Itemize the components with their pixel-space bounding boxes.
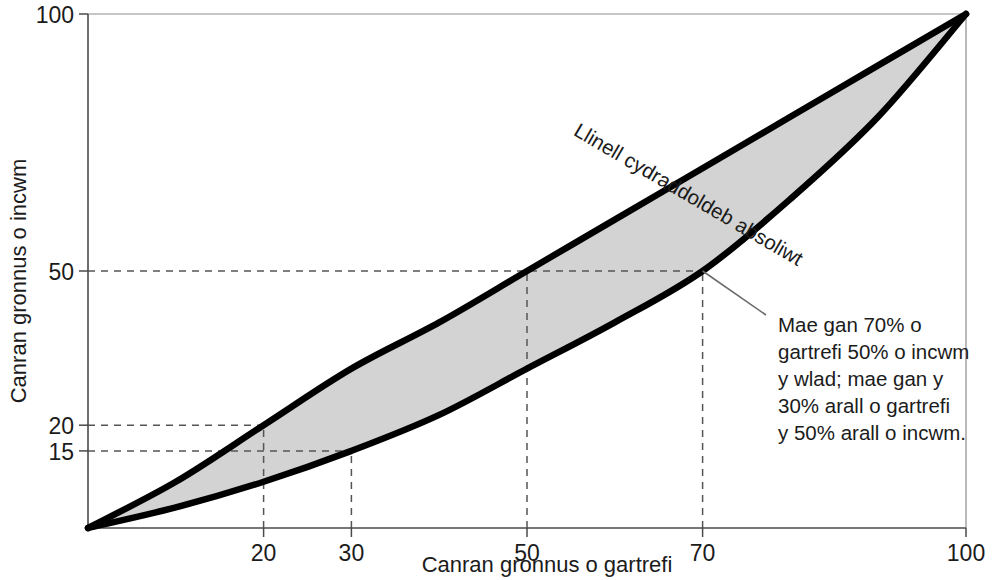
y-tick-label-20: 20	[48, 413, 74, 439]
annotation-line: 30% arall o gartrefi	[778, 394, 950, 417]
chart-canvas: 100 50 20 15 20 30 50 70 100 Canran gron…	[0, 0, 996, 580]
x-tick-label-30: 30	[339, 540, 365, 566]
x-axis-title: Canran gronnus o gartrefi	[422, 552, 673, 577]
lorenz-curve-figure: 100 50 20 15 20 30 50 70 100 Canran gron…	[0, 0, 996, 580]
y-axis-title: Canran gronnus o incwm	[6, 159, 31, 404]
annotation-line: Mae gan 70% o	[778, 313, 922, 336]
y-tick-labels: 100 50 20 15	[36, 2, 74, 465]
x-tick-label-20: 20	[251, 540, 277, 566]
y-tick-label-50: 50	[48, 259, 74, 285]
y-tick-label-15: 15	[48, 439, 74, 465]
annotation-line: gartrefi 50% o incwm	[778, 340, 969, 363]
x-tick-label-70: 70	[690, 540, 716, 566]
annotation-line: y 50% arall o incwm.	[778, 421, 966, 444]
annotation-line: y wlad; mae gan y	[778, 367, 944, 390]
y-tick-label-100: 100	[36, 2, 74, 28]
annotation-text-block: Mae gan 70% o gartrefi 50% o incwm y wla…	[778, 313, 969, 444]
x-tick-label-100: 100	[947, 540, 985, 566]
annotation-leader-line	[703, 271, 766, 315]
